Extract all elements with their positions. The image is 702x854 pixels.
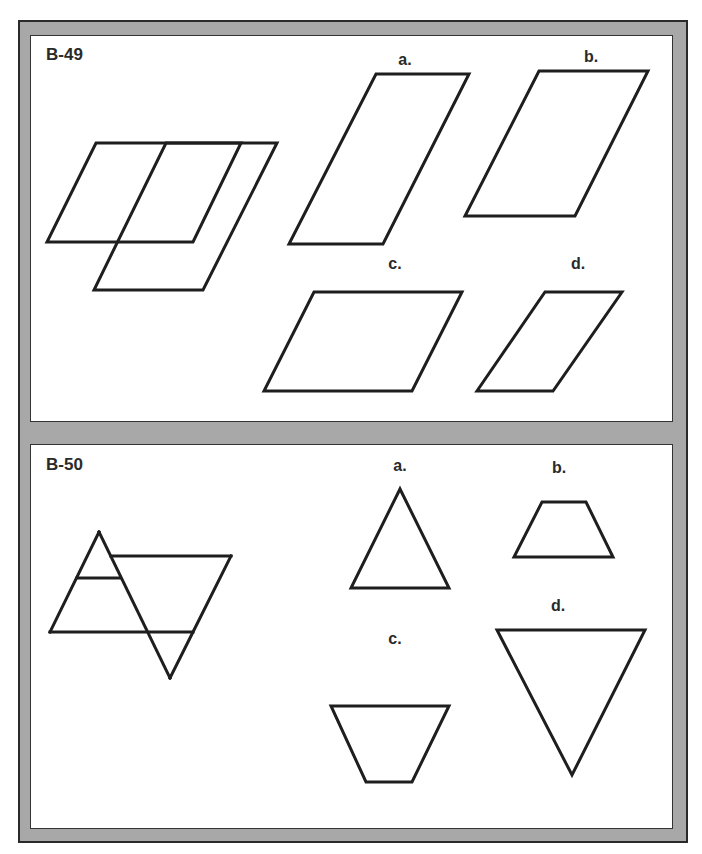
b49-main-figure xyxy=(47,143,277,290)
b50-option-d-shape[interactable] xyxy=(497,630,645,775)
b50-triangle-left-side xyxy=(50,532,99,632)
b50-main-figure xyxy=(50,532,231,678)
b50-triangle-right-side xyxy=(99,532,170,678)
b50-right-edge xyxy=(170,556,231,678)
b50-option-a-shape[interactable] xyxy=(351,489,449,588)
b49-parallelogram-1 xyxy=(47,143,241,242)
b49-option-c-shape[interactable] xyxy=(264,292,462,391)
b49-option-d-shape[interactable] xyxy=(477,292,622,391)
figures-canvas xyxy=(0,0,702,854)
b49-parallelogram-2 xyxy=(94,143,277,290)
b50-option-c-shape[interactable] xyxy=(331,706,449,782)
b49-option-a-shape[interactable] xyxy=(289,74,469,244)
b50-option-b-shape[interactable] xyxy=(514,502,613,557)
b49-option-b-shape[interactable] xyxy=(465,71,648,216)
